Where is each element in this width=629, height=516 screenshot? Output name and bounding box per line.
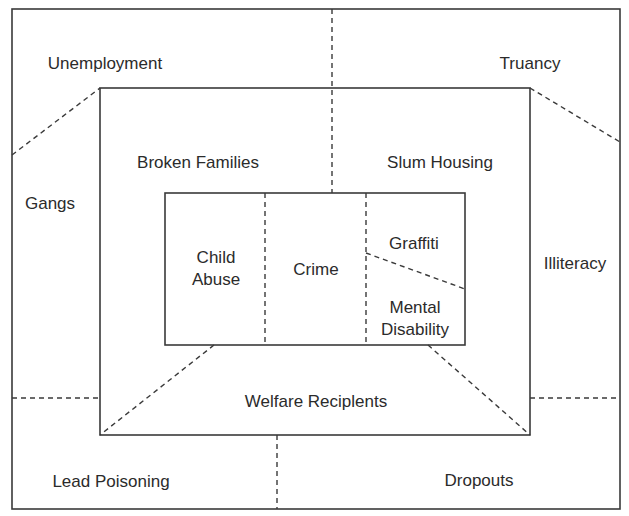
divider-top-left-diagonal (12, 88, 100, 155)
label-lead-poisoning: Lead Poisoning (52, 471, 169, 493)
label-illiteracy: Illiteracy (544, 253, 606, 275)
label-crime: Crime (293, 259, 338, 281)
label-truancy: Truancy (500, 53, 561, 75)
divider-graffiti-diagonal (366, 253, 465, 289)
diagram-canvas (0, 0, 629, 516)
label-unemployment: Unemployment (48, 53, 162, 75)
divider-welfare-left-diagonal (100, 345, 214, 435)
label-slum-housing: Slum Housing (387, 152, 493, 174)
divider-welfare-right-diagonal (428, 345, 530, 435)
label-child-abuse: Child Abuse (192, 247, 240, 291)
label-graffiti: Graffiti (389, 233, 439, 255)
label-dropouts: Dropouts (445, 470, 514, 492)
label-welfare-recipients: Welfare Reciplents (245, 391, 387, 413)
label-broken-families: Broken Families (137, 152, 259, 174)
divider-top-right-diagonal (530, 88, 620, 142)
label-mental-disability: Mental Disability (381, 297, 449, 341)
label-gangs: Gangs (25, 193, 75, 215)
